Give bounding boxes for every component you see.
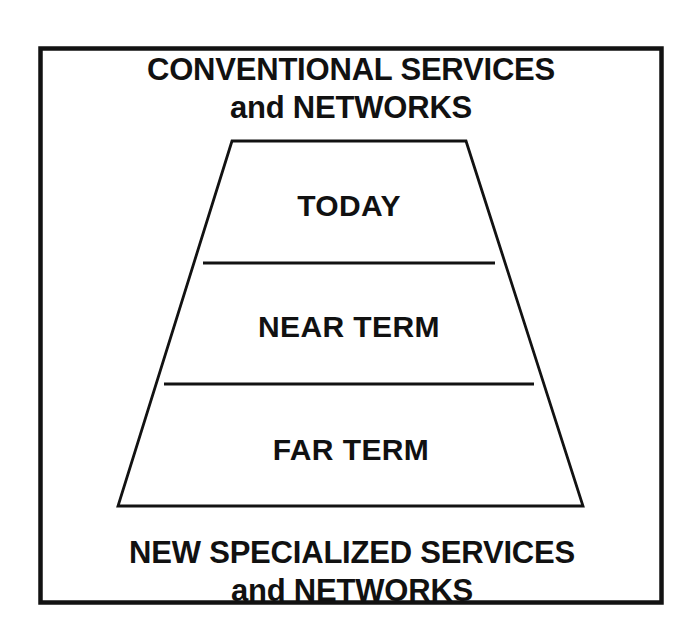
band-label-today: TODAY [297,189,401,222]
band-label-far-term: FAR TERM [273,433,430,466]
band-label-near-term: NEAR TERM [258,310,440,343]
trapezoid-evolution-diagram: CONVENTIONAL SERVICES and NETWORKS TODAY… [0,0,695,644]
top-heading-line1: CONVENTIONAL SERVICES [147,52,555,87]
bottom-heading-line1: NEW SPECIALIZED SERVICES [129,535,575,570]
bottom-heading-line2: and NETWORKS [231,573,473,608]
diagram-canvas: CONVENTIONAL SERVICES and NETWORKS TODAY… [0,0,695,644]
top-heading-line2: and NETWORKS [230,90,472,125]
